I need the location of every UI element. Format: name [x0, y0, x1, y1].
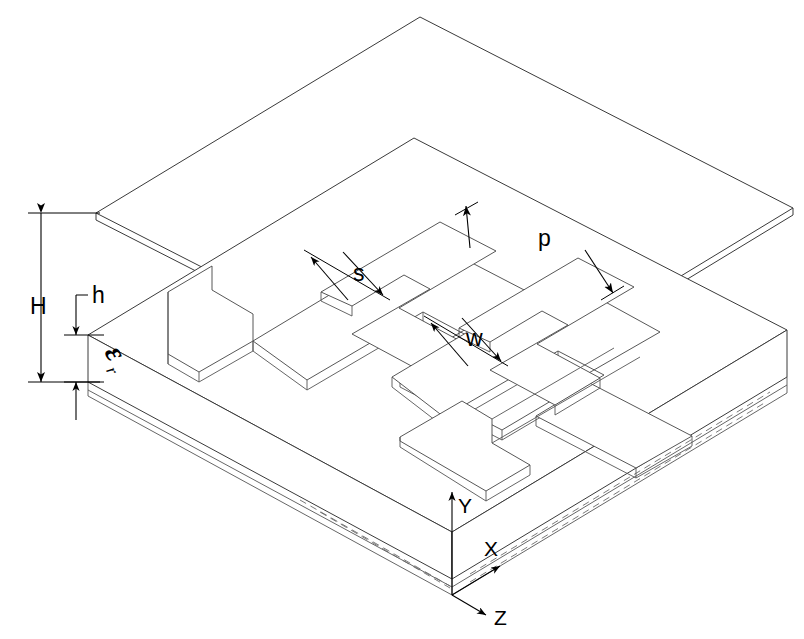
axis-label-y: Y — [458, 494, 472, 517]
axis-label-z: Z — [494, 606, 507, 629]
axis-label-x: X — [484, 537, 498, 560]
figure-canvas: H h ε r p s — [0, 0, 804, 639]
dimension-label-H: H — [30, 293, 47, 319]
dimension-label-w: w — [465, 325, 483, 351]
dimension-label-s: s — [353, 260, 365, 286]
dimension-label-h: h — [92, 282, 105, 308]
dimension-label-p: p — [538, 225, 551, 251]
isometric-drawing: H h ε r p s — [0, 0, 804, 639]
